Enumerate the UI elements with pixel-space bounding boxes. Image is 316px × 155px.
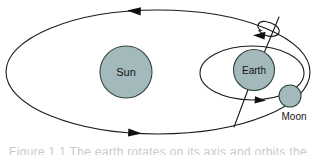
earth-rotation-axis-lower-line: [234, 87, 249, 127]
orbit-diagram-svg: Sun Earth Moon: [0, 0, 316, 155]
moon-label: Moon: [281, 111, 306, 122]
figure-caption-clipped: Figure 1.1 The earth rotates on its axis…: [0, 147, 316, 155]
earth-orbit-bottom-arrow-icon: [128, 129, 142, 137]
earth-label: Earth: [242, 65, 266, 76]
earth-orbit-top-arrow-icon: [127, 7, 141, 15]
sun-label: Sun: [116, 66, 136, 78]
orbit-diagram: Sun Earth Moon Figure 1.1 The earth rota…: [0, 0, 316, 155]
earth-spin-arrow-icon: [253, 32, 266, 40]
moon-orbit-arrow-icon: [255, 96, 267, 103]
moon-body: [279, 85, 301, 107]
